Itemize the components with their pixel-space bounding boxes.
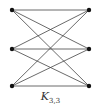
vertex (10, 47, 14, 51)
graph-subscript: 3,3 (49, 97, 60, 105)
graph-name: K (41, 90, 49, 103)
vertex (87, 47, 91, 51)
graph-label: K3,3 (0, 90, 101, 105)
vertex (87, 84, 91, 88)
vertex (87, 8, 91, 12)
vertex (10, 8, 14, 12)
vertex (10, 84, 14, 88)
